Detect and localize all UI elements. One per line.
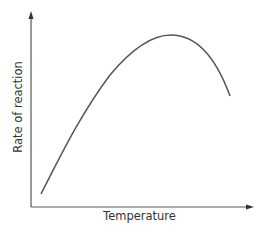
x-axis-label: Temperature	[0, 209, 273, 223]
x-axis-label-text: Temperature	[103, 209, 176, 223]
y-axis-label: Rate of reaction	[10, 47, 26, 167]
chart: Temperature Rate of reaction	[0, 0, 273, 235]
chart-plot-area	[0, 0, 273, 235]
rate-curve	[41, 35, 230, 194]
y-axis-arrow-icon	[29, 11, 34, 19]
